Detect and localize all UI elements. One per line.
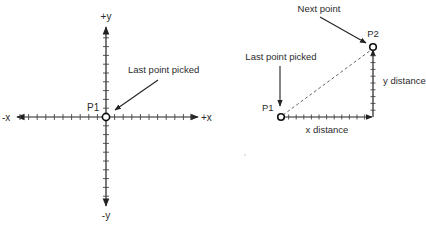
cartesian-axes-diagram: +y -y -x +x P1 Last point picked: [2, 11, 212, 221]
neg-x-label: -x: [2, 112, 10, 123]
p1-origin-marker: [102, 113, 109, 120]
p1-label-right: P1: [262, 102, 274, 113]
diagram-canvas: +y -y -x +x P1 Last point picked Next po…: [0, 0, 426, 225]
next-point-arrow-icon: [320, 17, 366, 43]
next-point-callout: Next point: [298, 3, 341, 14]
distance-ticks: [289, 56, 376, 120]
pos-y-label: +y: [101, 11, 112, 22]
relative-distance-diagram: Next point P2 Last point picked P1 x dis…: [244, 3, 426, 156]
neg-y-label: -y: [102, 210, 110, 221]
last-point-picked-callout: Last point picked: [128, 64, 199, 75]
y-distance-label: y distance: [383, 75, 426, 86]
p1-label: P1: [87, 102, 100, 113]
x-distance-label: x distance: [306, 124, 349, 135]
p2-label: P2: [367, 28, 379, 39]
p2-marker: [370, 44, 377, 51]
stray-mark: [244, 154, 246, 156]
pos-x-label: +x: [201, 112, 212, 123]
callout-arrow-icon: [115, 80, 158, 110]
p1-marker: [278, 114, 285, 121]
last-point-picked-callout-right: Last point picked: [245, 51, 316, 62]
